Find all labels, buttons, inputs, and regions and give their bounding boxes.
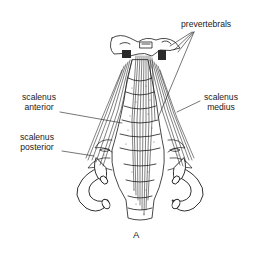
label-scalenus-posterior-line1: scalenus [12,132,62,142]
figure-caption: A [133,230,139,240]
label-scalenus-anterior-line2: anterior [14,102,64,112]
label-scalenus-medius-line2: medius [200,102,242,112]
label-scalenus-anterior: scalenus anterior [14,92,64,112]
label-scalenus-posterior-line2: posterior [12,142,62,152]
anatomy-illustration [0,0,254,253]
label-scalenus-medius-line1: scalenus [200,92,242,102]
skull-base [110,36,180,61]
label-prevertebrals: prevertebrals [181,19,231,29]
label-scalenus-anterior-line1: scalenus [14,92,64,102]
label-scalenus-medius: scalenus medius [200,92,242,112]
label-scalenus-posterior: scalenus posterior [12,132,62,152]
